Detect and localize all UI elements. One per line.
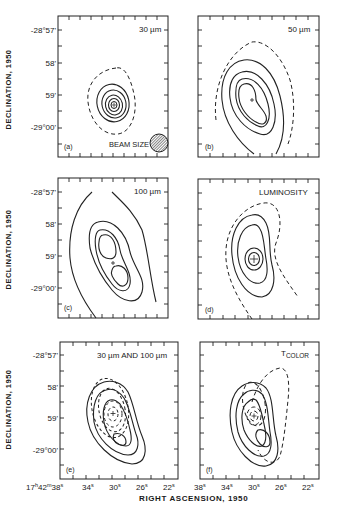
panel-f-title-sub: COLOR [286,352,309,359]
y-axis-title-row2: DECLINATION, 1950 [4,205,13,295]
beam-size-label: BEAM SIZE [109,140,149,149]
panel-d-tag: (d) [205,306,214,313]
x-tick-e-2: 30s [109,483,121,492]
panel-b-tag: (b) [205,143,214,150]
panel-a [58,16,168,157]
contours-30um [88,68,135,134]
panel-c-frame [58,178,168,318]
contours-tcolor [230,368,289,466]
x-tick-e-1: 34s [82,483,94,492]
panel-e-frame [60,342,178,479]
x-tick-e-3: 26s [136,483,148,492]
y-tick-e-3: -29°00' [33,446,58,455]
panel-a-title: 30 µm [139,25,161,34]
panel-c-tag: (c) [64,304,72,311]
y-tick-e-0: -28°57' [33,351,58,360]
panel-c-title: 100 µm [134,187,161,196]
y-tick-a-2: 59' [46,91,56,100]
panel-d [198,179,319,319]
panel-e [60,342,178,479]
panel-b-title: 50 µm [288,25,310,34]
y-tick-c-2: 59' [46,252,56,261]
panel-e-tag: (e) [66,466,75,473]
y-tick-a-0: -28°57' [31,26,56,35]
x-axis-title: RIGHT ASCENSION, 1950 [139,494,248,503]
panel-c [58,178,168,318]
panel-a-tag: (a) [64,143,73,150]
x-tick-f-1: 34s [221,483,233,492]
y-axis-title-row1: DECLINATION, 1950 [4,45,13,135]
y-tick-e-1: 58' [48,383,58,392]
panel-b [198,16,319,157]
beam-size-icon [150,134,168,152]
contours-50um [215,42,293,154]
panel-f-title: TCOLOR [281,349,309,358]
y-tick-e-2: 59' [48,414,58,423]
x-tick-e-4: 22s [163,483,175,492]
panel-f-tag: (f) [206,466,213,473]
y-tick-c-3: -29°00' [31,284,56,293]
contours-100um [70,192,156,318]
y-axis-title-row3: DECLINATION, 1950 [4,365,13,455]
y-tick-a-1: 58' [46,59,56,68]
panel-a-frame [58,16,168,157]
panel-f [200,342,319,479]
panel-b-frame [198,16,319,157]
panel-d-title: LUMINOSITY [259,188,308,197]
x-tick-f-4: 22s [302,483,314,492]
y-tick-a-3: -29°00' [31,123,56,132]
x-tick-f-3: 26s [275,483,287,492]
x-tick-f-2: 30s [248,483,260,492]
contours-30-and-100um [86,375,145,464]
panel-e-title: 30 µm AND 100 µm [97,351,167,360]
contours-luminosity [226,203,298,319]
y-tick-c-1: 58' [46,220,56,229]
x-tick-e-0: 17h42m38s [26,483,63,492]
y-tick-c-0: -28°57' [31,188,56,197]
x-tick-f-0: 38s [194,483,206,492]
